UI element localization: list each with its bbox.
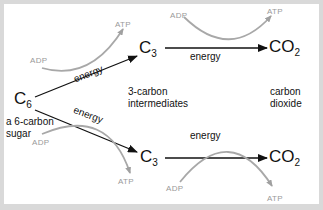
cofactor-atp-bottom-right: ATP <box>267 194 283 203</box>
label-energy-c3-co2-bottom: energy <box>190 130 221 142</box>
cofactor-adp-bottom-right: ADP <box>166 184 183 193</box>
cofactor-adp-top-right: ADP <box>170 11 187 20</box>
cofactor-atp-bottom-left: ATP <box>118 177 134 186</box>
cofactor-adp-bottom-left: ADP <box>32 138 49 147</box>
cofactor-arc-bottom-left <box>42 126 130 173</box>
node-c6: C6 <box>14 89 32 110</box>
cofactor-arc-bottom-right <box>180 152 272 186</box>
caption-3-carbon-intermediates: 3-carbonintermediates <box>128 86 188 110</box>
label-energy-c3-co2-top: energy <box>190 51 221 63</box>
node-c3-bottom: C3 <box>140 147 158 168</box>
node-co2-top: CO2 <box>269 37 300 58</box>
node-co2-bottom: CO2 <box>269 147 300 168</box>
caption-carbon-dioxide: carbondioxide <box>270 86 302 110</box>
cofactor-adp-top-left: ADP <box>30 56 47 65</box>
cofactor-atp-top-right: ATP <box>267 7 283 16</box>
cofactor-arc-top-left <box>42 29 123 71</box>
node-c3-top: C3 <box>139 38 157 59</box>
caption-6-carbon-sugar: a 6-carbonsugar <box>6 116 54 140</box>
cofactor-arc-top-right <box>184 16 271 39</box>
cofactor-atp-top-left: ATP <box>115 20 131 29</box>
